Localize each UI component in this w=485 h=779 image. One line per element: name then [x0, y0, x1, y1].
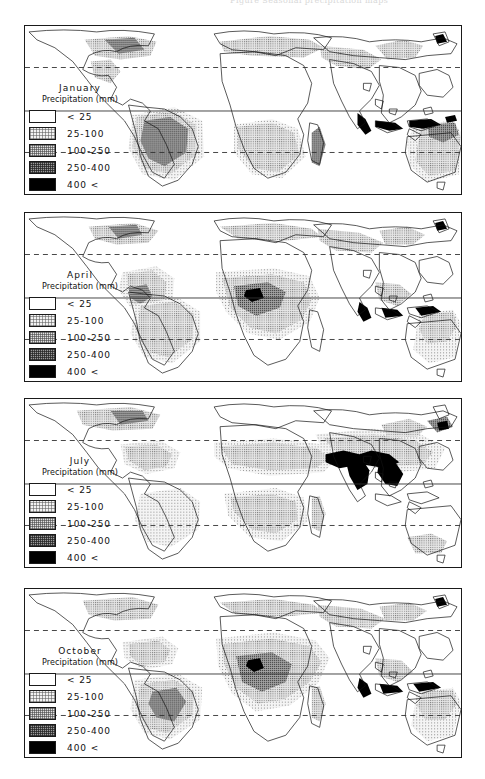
legend-row: 400 <: [26, 363, 134, 380]
legend-swatch-250-400: [29, 534, 56, 547]
legend-swatch-lt25: [29, 297, 56, 310]
legend-label: < 25: [67, 299, 92, 309]
legend-swatch-100-250: [29, 331, 56, 344]
legend-label: 400 <: [67, 553, 99, 563]
legend-label: 250-400: [67, 350, 111, 360]
legend-swatch-250-400: [29, 724, 56, 737]
legend-swatch-100-250: [29, 707, 56, 720]
legend-row: 400 <: [26, 176, 134, 193]
legend-subtitle: Precipitation (mm): [26, 467, 134, 478]
map-panel-july: July Precipitation (mm) < 25 25-100 100-…: [24, 398, 462, 568]
legend-swatch-100-250: [29, 144, 56, 157]
legend-subtitle: Precipitation (mm): [26, 281, 134, 292]
legend-month-title: January: [26, 83, 134, 94]
legend-label: 100-250: [67, 519, 111, 529]
legend-row: 25-100: [26, 688, 134, 705]
legend-october: October Precipitation (mm) < 25 25-100 1…: [26, 646, 134, 756]
legend-label: < 25: [67, 675, 92, 685]
legend-label: 100-250: [67, 146, 111, 156]
legend-swatch-100-250: [29, 517, 56, 530]
legend-label: 400 <: [67, 743, 99, 753]
legend-label: 100-250: [67, 333, 111, 343]
legend-swatch-lt25: [29, 673, 56, 686]
legend-row: 25-100: [26, 498, 134, 515]
legend-swatch-25-100: [29, 690, 56, 703]
legend-label: 250-400: [67, 163, 111, 173]
legend-swatch-gt400: [29, 551, 56, 564]
legend-swatch-lt25: [29, 483, 56, 496]
legend-january: January Precipitation (mm) < 25 25-100 1…: [26, 83, 134, 193]
map-panel-january: January Precipitation (mm) < 25 25-100 1…: [24, 25, 462, 195]
legend-month-title: October: [26, 646, 134, 657]
legend-row: 100-250: [26, 142, 134, 159]
legend-april: April Precipitation (mm) < 25 25-100 100…: [26, 270, 134, 380]
legend-swatch-gt400: [29, 365, 56, 378]
legend-label: 250-400: [67, 536, 111, 546]
legend-label: 25-100: [67, 692, 104, 702]
legend-month-title: July: [26, 456, 134, 467]
legend-row: 100-250: [26, 329, 134, 346]
legend-label: 250-400: [67, 726, 111, 736]
legend-swatch-25-100: [29, 314, 56, 327]
legend-swatch-lt25: [29, 110, 56, 123]
precipitation-map-figure: Figure Seasonal precipitation maps: [0, 0, 485, 779]
legend-row: 400 <: [26, 739, 134, 756]
map-panel-october: October Precipitation (mm) < 25 25-100 1…: [24, 588, 462, 758]
map-panel-april: April Precipitation (mm) < 25 25-100 100…: [24, 212, 462, 382]
legend-swatch-25-100: [29, 500, 56, 513]
figure-caption: Figure Seasonal precipitation maps: [230, 0, 480, 6]
legend-label: 25-100: [67, 129, 104, 139]
legend-label: < 25: [67, 485, 92, 495]
legend-swatch-250-400: [29, 161, 56, 174]
legend-subtitle: Precipitation (mm): [26, 94, 134, 105]
legend-label: 400 <: [67, 367, 99, 377]
legend-row: 250-400: [26, 346, 134, 363]
legend-row: 100-250: [26, 515, 134, 532]
legend-row: < 25: [26, 108, 134, 125]
legend-month-title: April: [26, 270, 134, 281]
legend-row: 250-400: [26, 532, 134, 549]
legend-row: 25-100: [26, 125, 134, 142]
legend-label: 25-100: [67, 502, 104, 512]
legend-subtitle: Precipitation (mm): [26, 657, 134, 668]
legend-swatch-gt400: [29, 178, 56, 191]
legend-row: 25-100: [26, 312, 134, 329]
legend-label: 100-250: [67, 709, 111, 719]
legend-row: < 25: [26, 295, 134, 312]
legend-swatch-25-100: [29, 127, 56, 140]
legend-swatch-250-400: [29, 348, 56, 361]
legend-july: July Precipitation (mm) < 25 25-100 100-…: [26, 456, 134, 566]
legend-row: 400 <: [26, 549, 134, 566]
legend-label: 25-100: [67, 316, 104, 326]
legend-label: 400 <: [67, 180, 99, 190]
legend-row: < 25: [26, 671, 134, 688]
legend-row: 100-250: [26, 705, 134, 722]
legend-row: 250-400: [26, 159, 134, 176]
legend-swatch-gt400: [29, 741, 56, 754]
legend-label: < 25: [67, 112, 92, 122]
legend-row: < 25: [26, 481, 134, 498]
legend-row: 250-400: [26, 722, 134, 739]
